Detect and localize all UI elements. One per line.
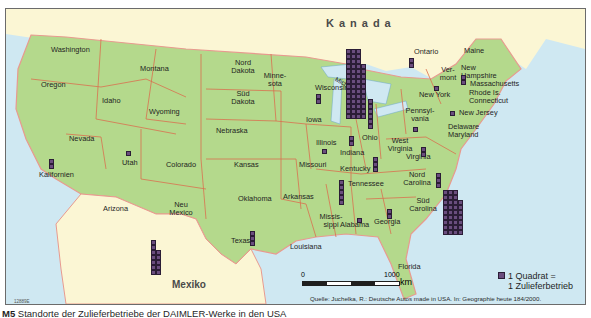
state-label: Süd Dakota <box>228 90 258 106</box>
source-citation: Quelle: Juchelka, R.: Deutsche Autos mad… <box>310 295 541 302</box>
state-label: Iowa <box>306 116 322 124</box>
supplier-stack-kalifornien <box>49 159 54 169</box>
state-label: Arkansas <box>283 193 314 201</box>
supplier-stack-illinois <box>322 149 327 154</box>
state-label: Florida <box>398 263 421 271</box>
state-label: Kalifornien <box>39 171 74 179</box>
state-label: Georgia <box>374 218 400 226</box>
state-label: Oregon <box>41 81 66 89</box>
state-label: Arizona <box>103 205 128 213</box>
figure-number: M5 <box>2 308 15 318</box>
state-label: Tennessee <box>348 180 384 188</box>
state-label: Washington <box>51 46 90 54</box>
state-label: Missouri <box>299 161 327 169</box>
state-label: Maine <box>464 47 484 55</box>
state-label: Colorado <box>166 161 196 169</box>
legend-square-icon <box>498 272 505 279</box>
map-code: 12889E <box>14 299 30 304</box>
supplier-stack-georgia <box>387 209 392 219</box>
state-label: New Jersey <box>459 109 498 117</box>
state-label: Nevada <box>69 135 94 143</box>
state-label: Idaho <box>102 97 121 105</box>
state-label: Virginia <box>406 153 431 161</box>
state-label: Montana <box>140 65 169 73</box>
supplier-stack-michigan <box>346 49 366 119</box>
state-label: Rhode Is. Connecticut <box>469 89 513 105</box>
supplier-stack-texas <box>250 231 255 246</box>
figure-title: Standorte der Zulieferbetriebe der DAIML… <box>18 308 287 318</box>
state-label: Süd Carolina <box>408 197 438 213</box>
supplier-stack-utah <box>126 151 131 156</box>
state-label: Indiana <box>340 149 364 157</box>
map-frame: Kanada Mexiko Washington Oregon Kaliforn… <box>5 8 586 305</box>
scale-bar: 0 1000 km <box>302 271 398 291</box>
state-label: New Hampshire <box>461 64 496 80</box>
state-label: Pennsyl-vania <box>403 107 437 123</box>
state-label: Massachusetts <box>470 80 519 88</box>
state-label: Texas <box>231 237 250 245</box>
supplier-stack-new-jersey <box>450 111 455 116</box>
supplier-stack-ontario <box>409 58 414 68</box>
supplier-stack-wisconsin <box>316 94 321 104</box>
supplier-stack-new-york <box>434 86 439 91</box>
supplier-stack-kentucky <box>373 157 378 172</box>
supplier-stack-nord-carolina <box>436 173 441 188</box>
state-label: West Virginia <box>385 137 415 153</box>
country-label-canada: Kanada <box>326 17 396 29</box>
map-legend: 1 Quadrat = 1 Zulieferbetrieb <box>498 271 573 291</box>
scale-start: 0 <box>301 271 305 278</box>
state-label: Wyoming <box>149 108 180 116</box>
state-label: Illinois <box>316 139 337 147</box>
scale-end: 1000 <box>384 271 400 278</box>
supplier-stack-ohio <box>368 99 373 129</box>
state-label: Alabama <box>340 221 369 229</box>
supplier-stack-pennsylvania <box>413 127 418 132</box>
state-label: Kentucky <box>340 165 370 173</box>
state-label: Utah <box>122 159 138 167</box>
supplier-stack-indiana <box>349 136 354 146</box>
state-label: Ver-mont <box>438 66 458 82</box>
state-label: Ohio <box>362 134 378 142</box>
state-label: Nord Dakota <box>228 59 258 75</box>
scale-unit: km <box>400 277 412 287</box>
state-label: Nord Carolina <box>400 171 434 187</box>
figure-caption: M5 Standorte der Zulieferbetriebe der DA… <box>2 308 286 318</box>
supplier-stack-sued-carolina <box>443 190 463 235</box>
legend-line-1: 1 Quadrat = <box>508 271 556 281</box>
state-label: Ontario <box>414 48 438 56</box>
state-label: Nebraska <box>216 127 248 135</box>
state-label: Oklahoma <box>238 195 272 203</box>
state-label: Delaware Maryland <box>448 123 488 139</box>
supplier-stack-alabama <box>357 218 362 223</box>
supplier-stack-massachusetts <box>461 75 466 85</box>
supplier-stack-tennessee <box>339 180 344 205</box>
map-base <box>6 9 585 304</box>
state-label: Kansas <box>234 161 259 169</box>
state-label: Neu Mexico <box>166 201 196 217</box>
supplier-stack-mexiko <box>151 240 161 275</box>
scale-bar-graphic <box>302 281 400 286</box>
legend-line-2: 1 Zulieferbetrieb <box>498 281 573 291</box>
state-label: Minne-sota <box>261 72 289 88</box>
state-label: New York <box>419 91 450 99</box>
state-label: Louisiana <box>290 243 322 251</box>
supplier-stack-virginia <box>421 147 426 157</box>
country-label-mexico: Mexiko <box>172 279 206 290</box>
